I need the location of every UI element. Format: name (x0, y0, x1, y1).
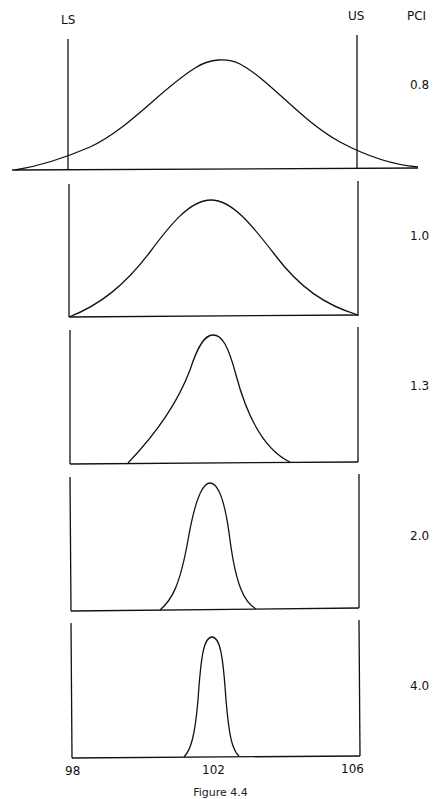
pci-value-label: 0.8 (410, 78, 429, 92)
distribution-curve (69, 200, 358, 317)
lower-spec-line (71, 623, 72, 758)
panel-pci-4-0 (71, 620, 360, 758)
pci-value-label: 4.0 (410, 679, 429, 693)
x-tick-102: 102 (202, 763, 225, 777)
panel-pci-1-3 (70, 327, 358, 464)
pci-header-label: PCI (407, 9, 426, 23)
pci-value-label: 2.0 (410, 529, 429, 543)
panel-pci-1-0 (69, 181, 358, 317)
x-tick-98: 98 (65, 764, 80, 778)
distribution-curve (184, 637, 239, 757)
baseline (69, 315, 358, 317)
upper-spec-label: US (348, 9, 364, 23)
panel-pci-0-8 (12, 35, 418, 170)
pci-value-label: 1.0 (410, 229, 429, 243)
figure-caption: Figure 4.4 (0, 786, 441, 799)
baseline (71, 608, 359, 611)
baseline (72, 756, 360, 758)
upper-spec-line (359, 620, 360, 756)
baseline (70, 462, 358, 464)
distribution-curve (128, 335, 290, 463)
lower-spec-label: LS (61, 13, 75, 27)
panel-pci-2-0 (70, 474, 359, 611)
x-tick-106: 106 (341, 762, 364, 776)
distribution-curve (160, 483, 256, 610)
lower-spec-line (70, 477, 71, 611)
pci-value-label: 1.3 (410, 379, 429, 393)
